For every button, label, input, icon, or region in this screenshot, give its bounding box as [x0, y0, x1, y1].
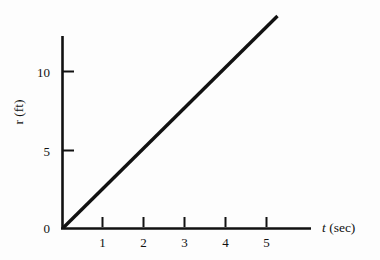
x-tick-label-3: 3: [181, 236, 188, 249]
x-axis-title: t (sec): [322, 221, 355, 235]
y-axis-unit-spacer: [11, 117, 26, 120]
y-tick-label-5: 5: [24, 144, 50, 157]
x-tick-label-4: 4: [222, 236, 229, 249]
x-tick-label-5: 5: [263, 236, 270, 249]
origin-tick-label: 0: [34, 222, 50, 235]
y-axis-symbol: r: [11, 120, 26, 125]
x-tick-label-1: 1: [99, 236, 106, 249]
data-line-r-vs-t: [63, 16, 278, 228]
y-axis-unit: (ft): [11, 99, 26, 116]
chart-figure: 0 10 5 1 2 3 4 5 t (sec) r (ft): [0, 0, 380, 260]
y-tick-label-10: 10: [24, 65, 50, 78]
x-tick-label-2: 2: [140, 236, 147, 249]
x-axis-unit: (sec): [329, 220, 355, 235]
y-axis-title: r (ft): [12, 99, 26, 124]
